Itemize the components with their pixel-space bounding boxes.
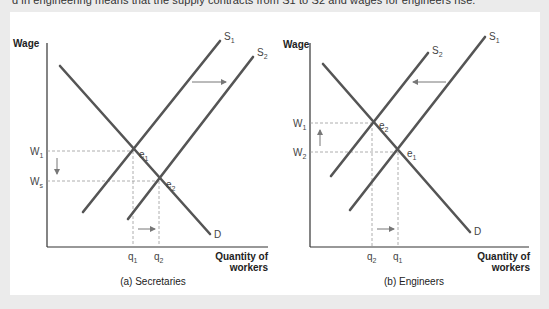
q2-tick-label: q2	[367, 251, 377, 264]
y-axis-label: Wage	[283, 39, 310, 50]
demand-label: D	[214, 229, 221, 240]
q1-tick-label: q1	[128, 251, 138, 264]
demand-curve	[323, 64, 470, 232]
supply-curve-s2	[128, 57, 253, 219]
x-axis-label-line1: Quantity of	[215, 251, 268, 262]
s2-label: S2	[257, 47, 268, 60]
w1-tick-label: W1	[30, 146, 43, 159]
guide-lines	[310, 123, 398, 247]
x-axis-label-line2: workers	[491, 262, 531, 273]
y-axis-label: Wage	[13, 38, 40, 49]
q2-tick-label: q2	[154, 251, 164, 264]
x-axis-label-line2: workers	[229, 262, 269, 273]
e2-label: e2	[166, 179, 176, 192]
e1-label: e1	[139, 149, 149, 162]
s1-label: S1	[489, 31, 500, 44]
s1-label: S1	[224, 31, 235, 44]
w1-tick-label: W1	[293, 118, 306, 131]
chart-engineers: Wage S1 S2 D e2 e1 W1 W2 q2 q1 Quantity …	[283, 31, 531, 287]
ws-tick-label: Ws	[30, 176, 43, 189]
s2-label: S2	[432, 45, 443, 58]
supply-curve-s1	[350, 37, 485, 210]
chart-secretaries: Wage S1 S2 D e1 e2 W1 Ws q1 q2 Quantity …	[13, 31, 269, 287]
chart-title-secretaries: (a) Secretaries	[120, 276, 186, 287]
labor-market-figure: Wage S1 S2 D e1 e2 W1 Ws q1 q2 Quantity …	[0, 0, 549, 309]
q1-tick-label: q1	[393, 251, 403, 264]
chart-title-engineers: (b) Engineers	[384, 276, 444, 287]
w2-tick-label: W2	[293, 147, 306, 160]
e1-label: e1	[407, 148, 417, 161]
demand-label: D	[474, 226, 481, 237]
x-axis-label-line1: Quantity of	[477, 251, 530, 262]
